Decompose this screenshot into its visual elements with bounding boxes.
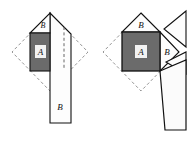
left-label-a: A [37, 47, 44, 57]
left-dissection-figure: A B B [12, 13, 88, 123]
right-dissection-figure: A B B [103, 11, 186, 130]
right-slanted-strip [160, 60, 186, 130]
geometry-canvas: A B B A B [0, 0, 191, 145]
right-label-triangle-b-right: B [164, 47, 170, 57]
right-label-triangle-b-top: B [138, 20, 144, 30]
left-label-triangle-b: B [41, 21, 46, 30]
right-label-a: A [137, 47, 144, 57]
geometry-figure: A B B A B [0, 0, 191, 145]
left-label-strip-b: B [57, 102, 63, 112]
